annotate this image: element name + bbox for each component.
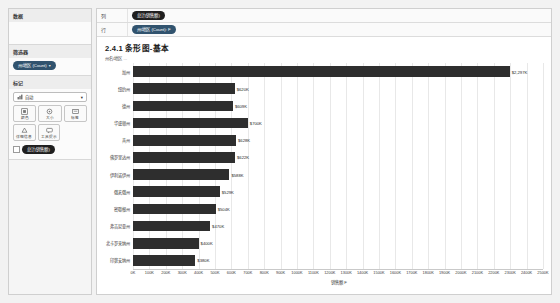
bar[interactable] [133,101,233,112]
measure-icon [13,146,20,153]
category-axis: 加州纽约州德州华盛顿州宾州佛罗里达州伊利诺伊州俄亥俄州密歇根州弗吉尼亚州北卡罗来… [105,63,133,269]
chart-canvas: 2.4.1 条形图-基本 州名/地区 ... 加州纽约州德州华盛顿州宾州佛罗里达… [97,37,551,294]
bar-mark-icon [17,94,23,100]
grid-line [543,63,544,269]
x-axis-tick-label: 100K [145,270,154,275]
grid-line [445,63,446,269]
grid-line [313,63,314,269]
marks-label-button[interactable]: 标签 [64,105,87,122]
category-label: 密歇根州 [114,206,130,212]
bar-value-label: $628K [238,138,250,143]
category-label: 佛罗里达州 [110,154,130,160]
x-axis-tick-label: 800K [260,270,269,275]
category-label: 印第安纳州 [110,257,130,263]
mark-type-select[interactable]: 自动 ▾ [13,92,87,102]
x-axis-tick-label: 200K [161,270,170,275]
x-axis-tick-label: 1500K [373,270,384,275]
tooltip-icon [46,127,53,134]
bar[interactable] [133,152,235,163]
bar-value-label: $700K [250,121,262,126]
category-label: 宾州 [122,137,130,143]
marks-tooltip-button[interactable]: 工具提示 [38,124,61,141]
x-axis: 0K100K200K300K400K500K600K700K800K900K10… [133,269,543,278]
category-label: 华盛顿州 [114,120,130,126]
grid-line [527,63,528,269]
marks-card-title: 标记 [9,76,91,89]
marks-detail-button[interactable]: 详细信息 [13,124,36,141]
bar[interactable] [133,204,216,215]
columns-shelf-label: 列 [97,9,128,22]
chevron-down-icon[interactable]: ▾ [81,95,83,100]
grid-line [379,63,380,269]
x-axis-tick-label: 1600K [390,270,401,275]
marks-detail-label: 详细信息 [16,135,32,139]
grid-line [395,63,396,269]
bars-container: $2,297K$620K$609K$700K$628K$622K$588K$52… [133,63,543,269]
bar[interactable] [133,135,236,146]
chevron-down-icon[interactable]: ▾ [49,62,51,69]
x-axis-tick-label: 2300K [505,270,516,275]
columns-pill-sum-sales[interactable]: 总计(销售额) [132,11,165,20]
x-axis-tick-label: 1000K [291,270,302,275]
rows-shelf[interactable]: 行 州/地区 (Count): F [97,23,551,37]
bar[interactable] [133,186,220,197]
columns-shelf[interactable]: 列 总计(销售额) [97,9,551,23]
grid-line [494,63,495,269]
bar[interactable] [133,255,195,266]
marks-label-label: 标签 [71,116,79,120]
data-pane-body [9,22,91,44]
x-axis-tick-label: 1300K [341,270,352,275]
rows-shelf-content[interactable]: 州/地区 (Count): F [128,25,551,34]
category-label: 德州 [122,103,130,109]
marks-color-button[interactable]: 颜色 [13,105,36,122]
data-pane-title: 数据 [9,9,91,22]
bar[interactable] [133,66,510,77]
chart-subtitle: 州名/地区 ... [105,55,545,61]
grid-line [428,63,429,269]
x-axis-tick-label: 2400K [521,270,532,275]
x-axis-title: 销售额 F [133,279,545,285]
marks-card-body: 自动 ▾ 颜色 大小 [9,89,91,159]
rows-pill-label: 州/地区 (Count): F [137,26,171,33]
bar[interactable] [133,83,235,94]
category-label: 弗吉尼亚州 [110,223,130,229]
grid-line [363,63,364,269]
bar[interactable] [133,169,229,180]
bar-value-label: $400K [201,241,213,246]
mark-type-label: 自动 [25,94,33,100]
rows-pill-state[interactable]: 州/地区 (Count): F [132,25,176,34]
grid-line [412,63,413,269]
bar-value-label: $588K [231,172,243,177]
size-icon [46,108,53,115]
x-axis-tick-label: 2100K [472,270,483,275]
left-panel: 数据 筛选器 州/地区 (Count) ▾ 标记 [8,8,92,295]
data-pane-section: 数据 [9,9,91,45]
x-axis-tick-label: 2000K [455,270,466,275]
bar[interactable] [133,221,210,232]
bar-value-label: $2,297K [512,69,528,74]
x-axis-tick-label: 600K [227,270,236,275]
marks-pill-sales[interactable]: 总计(销售额) [22,145,55,154]
marks-size-button[interactable]: 大小 [38,105,61,122]
columns-shelf-content[interactable]: 总计(销售额) [128,11,551,20]
filters-body[interactable]: 州/地区 (Count) ▾ [9,58,91,75]
filter-pill-state-count[interactable]: 州/地区 (Count) ▾ [13,61,56,70]
filters-section: 筛选器 州/地区 (Count) ▾ [9,45,91,76]
category-label: 纽约州 [118,86,130,92]
x-axis-tick-label: 1200K [324,270,335,275]
x-axis-tick-label: 1100K [308,270,319,275]
x-axis-tick-label: 1700K [406,270,417,275]
category-label: 加州 [122,69,130,75]
bar[interactable] [133,238,199,249]
x-axis-tick-label: 1400K [357,270,368,275]
bar-value-label: $470K [212,224,224,229]
bar-value-label: $622K [237,155,249,160]
filter-pill-label: 州/地区 (Count) [18,62,47,69]
bar-value-label: $609K [235,103,247,108]
label-icon [72,108,79,115]
bar[interactable] [133,118,248,129]
grid-line [330,63,331,269]
worksheet-panel: 列 总计(销售额) 行 州/地区 (Count): F 2.4.1 条形图-基本… [96,8,552,295]
x-axis-tick-label: 900K [276,270,285,275]
x-axis-tick-label: 700K [243,270,252,275]
